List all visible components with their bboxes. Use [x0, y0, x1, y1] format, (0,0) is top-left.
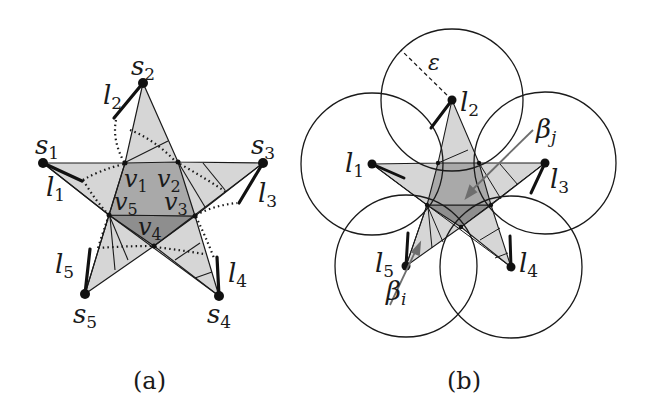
- label-l3: l3: [258, 178, 277, 211]
- label-l5: l5: [55, 249, 74, 282]
- epsilon-label: ε: [428, 50, 440, 75]
- label-l2: l2: [103, 80, 122, 113]
- label-l4: l4: [228, 258, 247, 291]
- label-l2-b: l2: [460, 87, 479, 120]
- figure-canvas: s2 s1 s3 s5 s4 l2 l1 l3 l4 l5 v1 v2 v3 v…: [0, 0, 647, 412]
- panel-a: s2 s1 s3 s5 s4 l2 l1 l3 l4 l5 v1 v2 v3 v…: [35, 51, 277, 332]
- label-s1: s1: [35, 130, 59, 163]
- panel-b: ε l2: [301, 29, 616, 338]
- radius-line: [401, 50, 452, 100]
- label-l3-b: l3: [550, 164, 569, 197]
- label-l4-b: l4: [519, 248, 538, 281]
- caption-b: (b): [447, 367, 481, 395]
- label-s2: s2: [131, 51, 155, 84]
- label-s5: s5: [73, 299, 97, 332]
- label-beta-i: βi: [385, 276, 406, 309]
- label-l1-b: l1: [345, 148, 364, 181]
- caption-a: (a): [133, 367, 166, 395]
- label-beta-j: βj: [535, 114, 557, 147]
- label-s4: s4: [207, 299, 231, 332]
- label-s3: s3: [251, 130, 275, 163]
